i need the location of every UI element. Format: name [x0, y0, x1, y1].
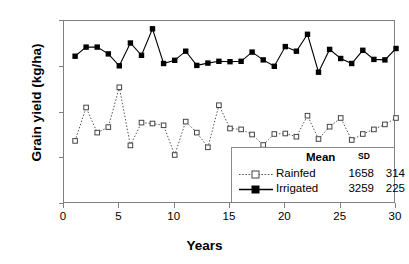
legend-row-irrigated: Irrigated 3259 225	[232, 182, 394, 197]
data-point	[106, 51, 111, 56]
data-point	[150, 121, 155, 126]
data-point	[327, 124, 332, 129]
data-point	[338, 56, 343, 61]
data-point	[172, 58, 177, 63]
legend-sd-rainfed: 314	[375, 167, 405, 179]
x-tick-label: 5	[98, 210, 138, 222]
x-tick-label: 25	[320, 210, 360, 222]
data-point	[316, 137, 321, 142]
data-point	[372, 127, 377, 132]
legend-header: Mean SD	[232, 151, 394, 165]
x-tick-label: 30	[375, 210, 409, 222]
data-point	[305, 113, 310, 118]
data-point	[272, 64, 277, 69]
data-point	[194, 63, 199, 68]
data-point	[338, 116, 343, 121]
data-point	[183, 119, 188, 124]
data-point	[272, 132, 277, 137]
data-point	[316, 70, 321, 75]
data-point	[249, 49, 254, 54]
data-point	[327, 47, 332, 52]
legend-mean-header: Mean	[306, 151, 352, 163]
data-point	[161, 61, 166, 66]
data-point	[393, 46, 398, 51]
data-point	[294, 134, 299, 139]
data-point	[382, 57, 387, 62]
data-point	[239, 127, 244, 132]
data-point	[360, 48, 365, 53]
data-point	[250, 132, 255, 137]
data-point	[371, 57, 376, 62]
legend-sd-header: SD	[358, 151, 388, 161]
data-point	[117, 85, 122, 90]
data-point	[228, 126, 233, 131]
x-tick-label: 0	[43, 210, 83, 222]
data-point	[117, 63, 122, 68]
data-point	[72, 54, 77, 59]
data-point	[349, 138, 354, 143]
x-axis-title: Years	[0, 238, 409, 253]
data-point	[73, 139, 78, 144]
data-point	[261, 57, 266, 62]
data-point	[305, 32, 310, 37]
data-point	[361, 132, 366, 137]
data-point	[205, 60, 210, 65]
data-point	[95, 130, 100, 135]
x-tick-label: 20	[264, 210, 304, 222]
data-point	[283, 44, 288, 49]
legend-sd-irrigated: 225	[375, 182, 405, 194]
data-point	[216, 59, 221, 64]
legend-key-irrigated-icon	[238, 182, 274, 197]
data-point	[383, 122, 388, 127]
data-point	[139, 120, 144, 125]
data-point	[394, 116, 399, 121]
x-tick-label: 10	[154, 210, 194, 222]
legend-mean-rainfed: 1658	[334, 167, 374, 179]
data-point	[150, 26, 155, 31]
y-axis-title: Grain yield (kg/ha)	[29, 13, 44, 193]
data-point	[206, 145, 211, 150]
data-point	[195, 130, 200, 135]
data-point	[183, 49, 188, 54]
data-point	[349, 61, 354, 66]
data-point	[294, 49, 299, 54]
legend-key-rainfed-icon	[238, 167, 274, 182]
series-line-rainfed	[75, 87, 396, 155]
data-point	[106, 125, 111, 130]
legend-row-rainfed: Rainfed 1658 314	[232, 167, 394, 182]
data-point	[238, 59, 243, 64]
data-point	[95, 44, 100, 49]
chart-legend: Mean SD Rainfed 1658 314 Irrigated 3259 …	[231, 147, 394, 202]
data-point	[227, 59, 232, 64]
data-point	[217, 103, 222, 108]
legend-mean-irrigated: 3259	[334, 182, 374, 194]
chart-figure: Grain yield (kg/ha) Years 01000200030004…	[0, 0, 409, 264]
series-line-irrigated	[75, 29, 396, 72]
data-point	[161, 123, 166, 128]
data-point	[83, 44, 88, 49]
data-point	[128, 143, 133, 148]
data-point	[128, 40, 133, 45]
data-point	[283, 131, 288, 136]
data-point	[172, 153, 177, 158]
x-tick-label: 15	[209, 210, 249, 222]
data-point	[84, 105, 89, 110]
data-point	[139, 53, 144, 58]
